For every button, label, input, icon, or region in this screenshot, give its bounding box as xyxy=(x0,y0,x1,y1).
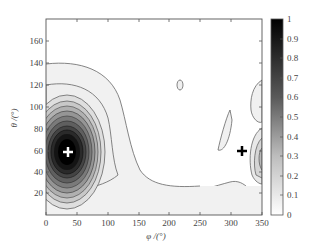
svg-text:250: 250 xyxy=(193,218,207,228)
svg-text:0.6: 0.6 xyxy=(287,92,299,102)
svg-text:100: 100 xyxy=(30,102,44,112)
svg-text:50: 50 xyxy=(73,218,83,228)
y-axis-label: θ /(°) xyxy=(9,109,19,128)
svg-text:40: 40 xyxy=(34,167,44,177)
svg-text:0.9: 0.9 xyxy=(287,34,299,44)
svg-text:60: 60 xyxy=(34,146,44,156)
svg-text:350: 350 xyxy=(255,218,269,228)
svg-text:0.3: 0.3 xyxy=(287,151,299,161)
svg-text:0.7: 0.7 xyxy=(287,73,299,83)
svg-text:100: 100 xyxy=(101,218,115,228)
svg-text:0.8: 0.8 xyxy=(287,53,299,63)
svg-text:150: 150 xyxy=(132,218,146,228)
svg-text:160: 160 xyxy=(30,36,44,46)
svg-text:20: 20 xyxy=(34,188,44,198)
svg-text:0.1: 0.1 xyxy=(287,190,298,200)
x-axis-label: φ /(°) xyxy=(146,231,165,241)
contour-chart: 0 50 100 150 200 250 300 350 φ /(°) 20 4… xyxy=(0,0,314,252)
svg-text:0.5: 0.5 xyxy=(287,112,299,122)
plot-area xyxy=(29,19,262,215)
svg-text:0: 0 xyxy=(287,210,292,220)
svg-text:1: 1 xyxy=(287,14,292,24)
svg-text:0.4: 0.4 xyxy=(287,132,299,142)
svg-text:200: 200 xyxy=(162,218,176,228)
svg-text:140: 140 xyxy=(30,58,44,68)
small-contour xyxy=(177,80,183,90)
svg-text:0: 0 xyxy=(44,218,49,228)
svg-text:80: 80 xyxy=(34,124,44,134)
svg-text:0.2: 0.2 xyxy=(287,171,298,181)
svg-text:120: 120 xyxy=(30,80,44,90)
svg-text:300: 300 xyxy=(224,218,238,228)
colorbar: 0 0.1 0.2 0.3 0.4 0.5 0.6 0.7 0.8 0.9 1 xyxy=(271,14,299,220)
